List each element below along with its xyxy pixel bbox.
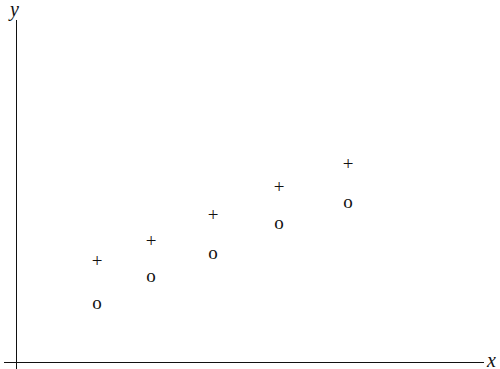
plus-marker: + [92, 251, 103, 270]
plus-marker: + [208, 205, 219, 224]
circle-marker: o [146, 266, 156, 285]
circle-marker: o [274, 213, 284, 232]
scatter-points: +++++ooooo [0, 0, 500, 369]
plus-marker: + [146, 231, 157, 250]
plus-marker: + [274, 177, 285, 196]
plus-marker: + [343, 154, 354, 173]
circle-marker: o [208, 243, 218, 262]
circle-marker: o [343, 192, 353, 211]
circle-marker: o [92, 293, 102, 312]
